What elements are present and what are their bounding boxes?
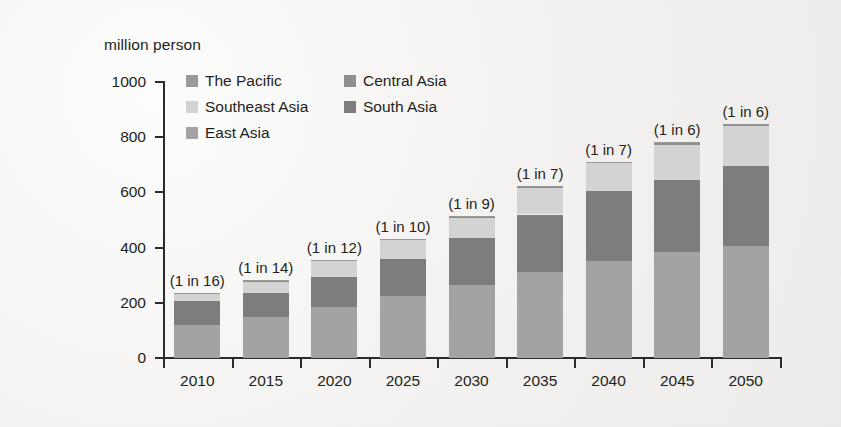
legend-label: East Asia [205, 124, 270, 142]
bar-2040[interactable] [586, 162, 632, 359]
bar-annotation-2040: (1 in 7) [585, 141, 632, 158]
bar-2035[interactable] [517, 186, 563, 358]
bar-2030[interactable] [449, 216, 495, 358]
bar-segment-2050-central-asia[interactable] [723, 124, 769, 126]
legend-label: Central Asia [363, 72, 447, 90]
y-tick-label-1000: 1000 [90, 73, 146, 91]
x-tick-1 [232, 359, 234, 368]
bar-2050[interactable] [723, 124, 769, 358]
y-tick-label-400: 400 [90, 239, 146, 257]
bar-segment-2035-central-asia[interactable] [517, 187, 563, 189]
bar-segment-2010-east-asia[interactable] [174, 325, 220, 358]
bar-segment-2025-east-asia[interactable] [380, 296, 426, 358]
legend-item-southeast-asia[interactable]: Southeast Asia [186, 98, 344, 116]
bar-segment-2050-southeast-asia[interactable] [723, 126, 769, 165]
bar-segment-2015-southeast-asia[interactable] [243, 282, 289, 294]
bar-segment-2040-central-asia[interactable] [586, 162, 632, 164]
x-tick-5 [506, 359, 508, 368]
bar-segment-2020-central-asia[interactable] [311, 260, 357, 261]
x-tick-label-2040: 2040 [591, 372, 625, 390]
bar-annotation-2025: (1 in 10) [375, 218, 430, 235]
y-tick-label-0: 0 [90, 349, 146, 367]
legend-label: Southeast Asia [205, 98, 308, 116]
x-tick-4 [437, 359, 439, 368]
x-tick-6 [574, 359, 576, 368]
bar-segment-2025-south-asia[interactable] [380, 259, 426, 296]
bar-2020[interactable] [311, 260, 357, 358]
bar-segment-2035-southeast-asia[interactable] [517, 188, 563, 214]
legend-item-central-asia[interactable]: Central Asia [344, 72, 514, 90]
bar-segment-2040-east-asia[interactable] [586, 261, 632, 358]
bar-segment-2010-southeast-asia[interactable] [174, 294, 220, 302]
x-tick-label-2020: 2020 [317, 372, 351, 390]
bar-annotation-2030: (1 in 9) [448, 195, 495, 212]
legend-label: South Asia [363, 98, 437, 116]
bar-2045[interactable] [654, 142, 700, 358]
bar-segment-2025-central-asia[interactable] [380, 239, 426, 240]
bar-segment-2015-east-asia[interactable] [243, 317, 289, 358]
bar-segment-2020-south-asia[interactable] [311, 277, 357, 307]
legend-label: The Pacific [205, 72, 282, 90]
x-tick-9 [780, 359, 782, 368]
y-tick-label-800: 800 [90, 128, 146, 146]
bar-segment-2010-south-asia[interactable] [174, 301, 220, 324]
bar-segment-2030-southeast-asia[interactable] [449, 218, 495, 238]
legend-swatch-icon [344, 75, 356, 87]
x-tick-0 [163, 359, 165, 368]
bar-annotation-2050: (1 in 6) [722, 103, 769, 120]
bar-segment-2035-east-asia[interactable] [517, 272, 563, 358]
y-axis-unit-label: million person [104, 36, 201, 54]
x-tick-label-2050: 2050 [728, 372, 762, 390]
bar-segment-2045-southeast-asia[interactable] [654, 145, 700, 180]
legend-item-east-asia[interactable]: East Asia [186, 124, 344, 142]
x-tick-8 [711, 359, 713, 368]
x-tick-label-2045: 2045 [660, 372, 694, 390]
x-tick-2 [300, 359, 302, 368]
y-tick-label-200: 200 [90, 294, 146, 312]
bar-segment-2015-central-asia[interactable] [243, 280, 289, 281]
x-tick-label-2025: 2025 [386, 372, 420, 390]
bar-2025[interactable] [380, 239, 426, 358]
bar-segment-2045-south-asia[interactable] [654, 180, 700, 252]
legend-swatch-icon [186, 127, 198, 139]
chart-legend: The PacificCentral AsiaSoutheast AsiaSou… [186, 68, 516, 146]
bar-2015[interactable] [243, 280, 289, 358]
x-tick-3 [369, 359, 371, 368]
legend-item-the-pacific[interactable]: The Pacific [186, 72, 344, 90]
bar-segment-2050-south-asia[interactable] [723, 166, 769, 247]
y-tick-label-600: 600 [90, 183, 146, 201]
bar-annotation-2035: (1 in 7) [517, 165, 564, 182]
bar-annotation-2045: (1 in 6) [654, 121, 701, 138]
bar-segment-2030-central-asia[interactable] [449, 217, 495, 218]
bar-segment-2020-southeast-asia[interactable] [311, 261, 357, 276]
x-tick-label-2030: 2030 [454, 372, 488, 390]
bar-segment-2030-east-asia[interactable] [449, 285, 495, 358]
bar-segment-2040-south-asia[interactable] [586, 191, 632, 261]
bar-segment-2040-southeast-asia[interactable] [586, 163, 632, 191]
x-tick-label-2015: 2015 [249, 372, 283, 390]
legend-swatch-icon [186, 101, 198, 113]
legend-swatch-icon [344, 101, 356, 113]
bar-segment-2020-east-asia[interactable] [311, 307, 357, 358]
bar-segment-2050-east-asia[interactable] [723, 246, 769, 358]
bar-annotation-2010: (1 in 16) [170, 272, 225, 289]
bar-annotation-2015: (1 in 14) [238, 259, 293, 276]
bar-segment-2045-central-asia[interactable] [654, 143, 700, 145]
bar-2010[interactable] [174, 293, 220, 358]
bar-segment-2025-southeast-asia[interactable] [380, 240, 426, 258]
legend-item-south-asia[interactable]: South Asia [344, 98, 514, 116]
bar-segment-2015-south-asia[interactable] [243, 293, 289, 316]
bar-segment-2045-east-asia[interactable] [654, 252, 700, 358]
x-tick-label-2010: 2010 [180, 372, 214, 390]
bar-segment-2030-south-asia[interactable] [449, 238, 495, 285]
chart-page: million person 02004006008001000 2010201… [0, 0, 841, 427]
bar-segment-2010-central-asia[interactable] [174, 293, 220, 294]
legend-swatch-icon [186, 75, 198, 87]
x-tick-label-2035: 2035 [523, 372, 557, 390]
bar-segment-2035-south-asia[interactable] [517, 215, 563, 273]
bar-annotation-2020: (1 in 12) [307, 239, 362, 256]
x-tick-7 [643, 359, 645, 368]
